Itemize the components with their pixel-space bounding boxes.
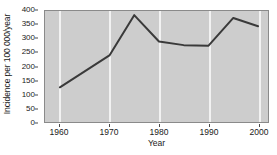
y-tick-mark bbox=[35, 108, 38, 109]
y-axis-title: Incidence per 100 000/year bbox=[0, 0, 14, 128]
x-tick-mark bbox=[59, 124, 60, 127]
x-tick-label: 1980 bbox=[150, 128, 169, 137]
y-tick-label: 250 bbox=[22, 48, 35, 56]
y-tick-mark bbox=[35, 38, 38, 39]
y-tick-label: 100 bbox=[22, 91, 35, 99]
y-tick-label: 50 bbox=[26, 105, 35, 113]
plot-area bbox=[44, 10, 269, 123]
x-axis-title: Year bbox=[44, 138, 269, 148]
x-tick-label: 1970 bbox=[100, 128, 119, 137]
x-tick-mark bbox=[209, 124, 210, 127]
y-tick-label: 150 bbox=[22, 77, 35, 85]
y-tick-mark bbox=[35, 10, 38, 11]
y-tick-label: 300 bbox=[22, 34, 35, 42]
x-axis-tick-group: 19601970198019902000 bbox=[44, 124, 269, 138]
x-tick-label: 1990 bbox=[200, 128, 219, 137]
y-axis-tick-group: 050100150200250300350400 bbox=[14, 8, 38, 124]
series-line-incidence bbox=[45, 11, 268, 122]
y-tick-label: 200 bbox=[22, 63, 35, 71]
y-tick-mark bbox=[35, 66, 38, 67]
y-tick-label: 400 bbox=[22, 6, 35, 14]
y-tick-label: 350 bbox=[22, 20, 35, 28]
y-tick-mark bbox=[35, 80, 38, 81]
x-tick-label: 1960 bbox=[50, 128, 69, 137]
incidence-line-chart: Incidence per 100 000/year 0501001502002… bbox=[0, 0, 277, 155]
y-tick-mark bbox=[35, 24, 38, 25]
x-tick-mark bbox=[159, 124, 160, 127]
x-tick-mark bbox=[109, 124, 110, 127]
x-tick-mark bbox=[259, 124, 260, 127]
y-tick-mark bbox=[35, 123, 38, 124]
x-tick-label: 2000 bbox=[250, 128, 269, 137]
y-tick-mark bbox=[35, 94, 38, 95]
data-line bbox=[60, 15, 258, 87]
y-axis-title-text: Incidence per 100 000/year bbox=[2, 14, 12, 114]
y-tick-mark bbox=[35, 52, 38, 53]
